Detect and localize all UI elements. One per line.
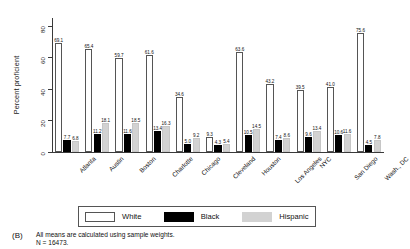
x-axis-label-boston: Boston [138,155,157,174]
legend-label-hispanic: Hispanic [279,212,308,221]
bar-value-label: 14.5 [252,124,261,129]
bar-hispanic: 13.4 [313,131,320,152]
bar-white: 43.2 [266,84,273,152]
x-axis-label-atlanta: Atlanta [78,155,97,174]
legend-swatch-black [164,212,194,222]
bar-value-label: 5.4 [223,139,229,144]
bar-group: 9.34.35.4 [206,18,230,152]
bar-value-label: 9.6 [305,132,311,137]
bar-value-label: 39.5 [296,85,305,90]
bar-group: 41.010.611.6 [327,18,351,152]
y-axis-tick-label: 60 [40,57,46,64]
legend: White Black Hispanic [78,206,316,227]
caption-tag: (B) [12,231,36,240]
bar-black: 7.4 [275,140,282,152]
bar-hispanic: 8.6 [283,138,290,152]
caption-line-1: All means are calculated using sample we… [36,231,175,239]
legend-label-white: White [122,212,141,221]
bar-white: 9.3 [206,137,213,152]
bar-value-label: 13.4 [312,126,321,131]
bar-black: 13.4 [154,131,161,152]
bar-value-label: 4.3 [215,140,221,145]
bar-value-label: 18.5 [131,118,140,123]
bar-black: 5.0 [184,144,191,152]
bar-black: 9.6 [305,137,312,152]
figure-caption: (B) All means are calculated using sampl… [12,231,175,248]
bar-value-label: 69.1 [54,38,63,43]
bar-white: 59.7 [115,58,122,152]
bar-value-label: 61.6 [145,50,154,55]
bar-value-label: 11.6 [343,129,352,134]
bar-value-label: 18.1 [101,118,110,123]
x-axis-label-los-angeles: Los Angeles [294,155,324,185]
bar-value-label: 6.8 [72,136,78,141]
y-axis-tick-label: 80 [40,26,46,33]
bar-group: 39.59.613.4 [297,18,321,152]
bar-value-label: 41.0 [326,82,335,87]
bar-value-label: 5.0 [185,139,191,144]
bar-white: 75.6 [357,33,364,152]
bar-black: 4.5 [365,145,372,152]
x-axis-label-wash-dc: Wash., DC [383,155,410,182]
bar-white: 69.1 [55,43,62,152]
bar-value-label: 75.6 [356,28,365,33]
legend-label-black: Black [201,212,220,221]
bar-group: 43.27.48.6 [266,18,290,152]
legend-swatch-white [85,212,115,222]
bar-group: 61.613.416.3 [146,18,170,152]
bar-value-label: 9.2 [193,133,199,138]
bar-white: 63.6 [236,52,243,152]
bar-value-label: 10.5 [244,130,253,135]
bar-value-label: 16.3 [162,121,171,126]
bar-black: 11.6 [124,134,131,152]
caption-line-2: N = 16473. [36,239,175,247]
bar-hispanic: 18.1 [102,123,109,152]
bar-hispanic: 9.2 [193,138,200,153]
bar-value-label: 63.6 [235,47,244,52]
bar-value-label: 59.7 [115,53,124,58]
bar-group: 65.411.218.1 [85,18,109,152]
legend-item-hispanic: Hispanic [236,212,315,222]
bar-black: 7.7 [63,140,70,152]
bar-group: 59.711.618.5 [115,18,139,152]
x-axis-label-charlotte: Charlotte [170,155,193,178]
bar-black: 10.6 [335,135,342,152]
bar-hispanic: 18.5 [132,123,139,152]
bar-hispanic: 16.3 [162,126,169,152]
bar-value-label: 7.8 [374,135,380,140]
caption-text: All means are calculated using sample we… [36,231,175,248]
legend-item-black: Black [158,212,237,222]
bar-value-label: 11.6 [123,129,132,134]
bar-value-label: 7.4 [275,135,281,140]
bar-hispanic: 14.5 [253,129,260,152]
x-axis-label-austin: Austin [107,155,125,173]
bar-value-label: 43.2 [265,79,274,84]
bar-group: 75.64.57.8 [357,18,381,152]
y-axis-tick-label: 0 [40,152,46,155]
bar-black: 11.2 [94,134,101,152]
bar-group: 34.65.09.2 [176,18,200,152]
y-axis-title: Percent proficient [12,18,22,152]
y-axis-tick-label: 20 [40,120,46,127]
bar-value-label: 13.4 [153,126,162,131]
x-axis-line [52,152,384,153]
bar-black: 10.5 [245,135,252,152]
bar-white: 34.6 [176,97,183,152]
bar-value-label: 4.5 [366,140,372,145]
bar-group: 63.610.514.5 [236,18,260,152]
bar-group: 69.17.76.8 [55,18,79,152]
x-axis-label-cleveland: Cleveland [231,155,256,180]
x-axis-label-houston: Houston [260,155,282,177]
bar-value-label: 8.6 [284,133,290,138]
bar-value-label: 7.7 [64,135,70,140]
y-axis-tick-label: 40 [40,89,46,96]
legend-swatch-hispanic [242,212,272,222]
bar-value-label: 65.4 [84,44,93,49]
x-axis-label-san-diego: San Diego [352,155,378,181]
x-axis-label-chicago: Chicago [200,155,222,177]
bar-value-label: 11.2 [93,129,102,134]
bar-value-label: 9.3 [206,132,212,137]
bar-white: 65.4 [85,49,92,152]
bar-hispanic: 5.4 [223,144,230,153]
